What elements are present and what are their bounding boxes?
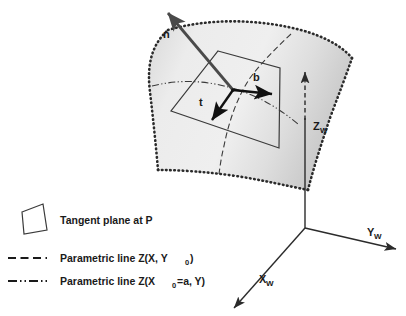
legend-label-parametric-line-y-sub: 0 [172,281,176,290]
point-p-marker [231,88,235,92]
legend-item-parametric-line-y: Parametric line Z(X 0 =a, Y) [8,275,205,290]
tangent-vector-label: t [199,96,203,108]
surface-fill [149,21,352,190]
axis-xw-line [234,228,305,308]
axis-yw-line [305,228,396,249]
legend-label-parametric-line-y-main: Parametric line Z(X [60,275,155,287]
axis-yw-subscript: W [374,232,382,241]
legend-item-tangent-plane: Tangent plane at P [22,204,153,234]
legend-item-parametric-line-x: Parametric line Z(X, Y 0 ) [8,252,194,267]
legend-label-parametric-line-x-sub: 0 [185,258,189,267]
legend-label-tangent-plane: Tangent plane at P [60,214,153,226]
figure-legend: Tangent plane at P Parametric line Z(X, … [8,204,205,290]
axis-xw-subscript: W [266,279,274,288]
axis-zw-label: Z [313,120,320,132]
parametric-surface [149,21,352,190]
normal-vector-label: n [163,28,170,40]
binormal-vector-label: b [253,71,260,83]
legend-label-parametric-line-x-main: Parametric line Z(X, Y [60,252,168,264]
legend-label-parametric-line-x-tail: ) [190,252,194,264]
legend-swatch-quad [22,204,47,234]
legend-label-parametric-line-y-tail: =a, Y) [177,275,205,287]
axis-zw-subscript: W [320,126,328,135]
figure-canvas: n b t Z W Y W X W Tangent plane at P [0,0,406,316]
